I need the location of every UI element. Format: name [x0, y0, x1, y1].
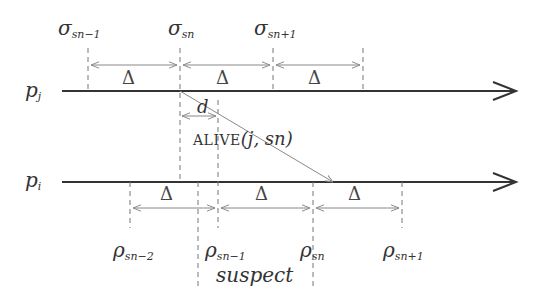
label-subscript: sn−2	[125, 250, 154, 263]
failure-detector-timing-diagram: pj pi σsn−1 σsn σsn+1 Δ Δ Δ d ALIVE(j, s…	[0, 0, 537, 307]
label-subscript: sn−1	[217, 250, 246, 263]
process-label-pj: pj	[25, 80, 41, 102]
greek-symbol: ρ	[300, 238, 312, 262]
process-symbol: p	[25, 78, 38, 102]
label-subscript: sn+1	[395, 250, 424, 263]
label-subscript: sn	[182, 28, 195, 41]
sigma-label-sn-minus-1: σsn−1	[58, 18, 101, 40]
process-subscript: j	[38, 90, 41, 103]
delta-label: Δ	[122, 69, 135, 87]
rho-label-sn-minus-2: ρsn−2	[113, 240, 154, 262]
greek-symbol: ρ	[205, 238, 217, 262]
delta-label: Δ	[255, 185, 268, 203]
alive-message-label: ALIVE(j, sn)	[193, 130, 293, 148]
delta-label: Δ	[160, 185, 173, 203]
greek-symbol: σ	[254, 16, 268, 40]
rho-label-sn-plus-1: ρsn+1	[383, 240, 424, 262]
greek-symbol: ρ	[113, 238, 125, 262]
delta-label: Δ	[308, 69, 321, 87]
delta-label: Δ	[216, 69, 229, 87]
label-subscript: sn+1	[268, 28, 297, 41]
label-subscript: sn	[312, 250, 325, 263]
delay-label: d	[197, 98, 209, 116]
process-label-pi: pi	[25, 170, 41, 192]
sigma-label-sn: σsn	[168, 18, 194, 40]
rho-label-sn: ρsn	[300, 240, 325, 262]
diagram-graphics	[0, 0, 537, 307]
delta-label: Δ	[348, 185, 361, 203]
message-name: ALIVE	[193, 132, 241, 148]
message-args: (j, sn)	[241, 128, 293, 149]
greek-symbol: σ	[168, 16, 182, 40]
greek-symbol: σ	[58, 16, 72, 40]
rho-label-sn-minus-1: ρsn−1	[205, 240, 246, 262]
suspect-label: suspect	[216, 265, 293, 285]
label-subscript: sn−1	[72, 28, 101, 41]
process-symbol: p	[25, 168, 38, 192]
greek-symbol: ρ	[383, 238, 395, 262]
sigma-label-sn-plus-1: σsn+1	[254, 18, 297, 40]
process-subscript: i	[38, 180, 42, 193]
